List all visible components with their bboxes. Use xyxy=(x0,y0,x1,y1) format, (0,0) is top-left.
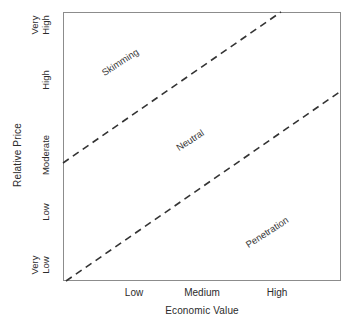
x-tick-label-high: High xyxy=(267,287,288,298)
y-tick-label-low: Low xyxy=(41,203,52,220)
y-tick-label-very-low: Very Low xyxy=(30,255,51,274)
plot-area xyxy=(63,12,341,281)
y-tick-label-high: High xyxy=(41,70,52,90)
value-map-chart: Relative Price Very High High Moderate L… xyxy=(0,0,359,324)
x-tick-label-medium: Medium xyxy=(184,287,220,298)
x-tick-label-low: Low xyxy=(125,287,143,298)
y-tick-label-moderate: Moderate xyxy=(41,135,52,175)
y-tick-label-very-high: Very High xyxy=(30,15,51,35)
x-axis-title: Economic Value xyxy=(165,305,239,316)
y-axis-title: Relative Price xyxy=(12,123,23,187)
